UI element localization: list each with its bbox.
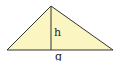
triangle-diagram: h g bbox=[0, 0, 115, 61]
base-label: g bbox=[55, 50, 62, 61]
height-label: h bbox=[54, 26, 61, 39]
